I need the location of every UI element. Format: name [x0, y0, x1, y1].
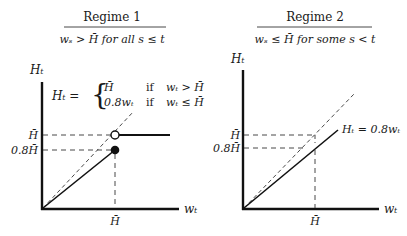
panel-regime-2: Regime 2 wₛ ≤ H̄ for some s < t Hₜ wₜ Hₜ… — [213, 10, 401, 228]
y-axis-label: Hₜ — [29, 63, 43, 77]
line-label: Hₜ = 0.8wₜ — [341, 123, 400, 136]
y-tick-08hbar: 0.8H̄ — [11, 144, 38, 157]
45-degree-line — [244, 94, 354, 208]
x-axis-label: wₜ — [184, 202, 197, 216]
open-circle-marker — [111, 131, 119, 139]
case-1-value: H̄ — [103, 81, 114, 94]
y-axis-label: Hₜ — [230, 52, 244, 66]
y-tick-08hbar: 0.8H̄ — [213, 142, 240, 155]
case-2-if: if — [146, 96, 155, 109]
y-tick-hbar: H̄ — [27, 129, 38, 142]
rule-lhs: Hₜ = — [51, 89, 79, 103]
case-2-cond: wₜ ≤ H̄ — [166, 96, 204, 109]
case-1-cond: wₜ > H̄ — [166, 81, 204, 94]
proportional-segment — [43, 150, 115, 208]
case-1-if: if — [146, 81, 155, 94]
x-axis-label: wₜ — [384, 202, 397, 216]
x-tick-hbar: H̄ — [309, 215, 320, 228]
filled-circle-marker — [111, 146, 120, 155]
45-degree-line — [43, 111, 134, 208]
proportional-line — [244, 130, 338, 208]
regime-1-condition: wₛ > H̄ for all s ≤ t — [59, 33, 165, 46]
x-tick-hbar: H̄ — [109, 215, 120, 228]
panel-regime-1: Regime 1 wₛ > H̄ for all s ≤ t Hₜ wₜ H̄ … — [11, 10, 204, 228]
y-tick-hbar: H̄ — [229, 129, 240, 142]
case-2-value: 0.8wₜ — [104, 96, 134, 109]
regimes-diagram: Regime 1 wₛ > H̄ for all s ≤ t Hₜ wₜ H̄ … — [0, 0, 407, 236]
regime-2-condition: wₛ ≤ H̄ for some s < t — [255, 33, 376, 46]
regime-1-title: Regime 1 — [83, 10, 141, 24]
regime-2-title: Regime 2 — [286, 10, 344, 24]
